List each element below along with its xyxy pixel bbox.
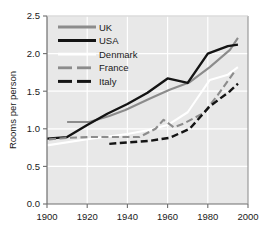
rooms-per-person-line-chart: 190019201940196019802000 0.00.51.01.52.0… bbox=[0, 0, 269, 238]
legend-label-denmark: Denmark bbox=[99, 49, 138, 60]
chart-figure: 190019201940196019802000 0.00.51.01.52.0… bbox=[0, 0, 269, 238]
x-tick-label: 1940 bbox=[117, 211, 138, 222]
y-axis-title: Rooms per person bbox=[7, 71, 18, 149]
y-tick-label: 0.5 bbox=[27, 161, 40, 172]
x-tick-label: 2000 bbox=[237, 211, 258, 222]
x-tick-label: 1900 bbox=[36, 211, 57, 222]
y-tick-label: 2.0 bbox=[27, 48, 40, 59]
legend-label-uk: UK bbox=[99, 22, 113, 33]
x-tick-label: 1920 bbox=[77, 211, 98, 222]
y-tick-label: 1.0 bbox=[27, 123, 40, 134]
legend-label-italy: Italy bbox=[99, 76, 117, 87]
legend-label-france: France bbox=[99, 62, 129, 73]
plot-area-background bbox=[47, 16, 248, 204]
x-tick-label: 1980 bbox=[197, 211, 218, 222]
y-tick-label: 2.5 bbox=[27, 10, 40, 21]
x-tick-label: 1960 bbox=[157, 211, 178, 222]
y-tick-label: 1.5 bbox=[27, 86, 40, 97]
legend-label-usa: USA bbox=[99, 35, 119, 46]
y-tick-label: 0.0 bbox=[27, 198, 40, 209]
